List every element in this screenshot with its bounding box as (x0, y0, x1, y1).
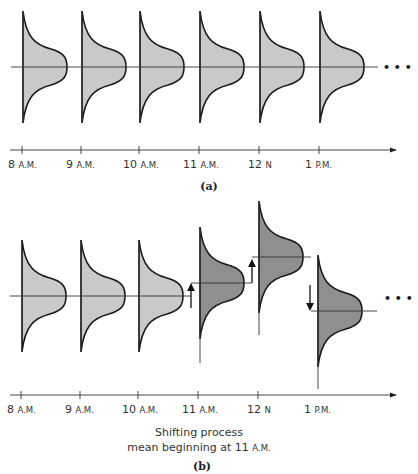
time-label-11am: 11 A.M. (183, 158, 219, 171)
annotation-line-1: Shifting process (155, 426, 243, 439)
annotation-line-2: mean beginning at 11 A.M. (127, 441, 270, 454)
time-label-10am: 10 A.M. (122, 403, 158, 416)
time-axis-a: 8 A.M. 9 A.M. 10 A.M. 11 A.M. 12 N 1 P.M… (8, 146, 396, 171)
time-axis-b: 8 A.M. 9 A.M. 10 A.M. 11 A.M. 12 N 1 P.M… (7, 391, 396, 416)
time-label-8am: 8 A.M. (7, 403, 36, 416)
distribution-b-1pm (318, 255, 362, 389)
ellipsis: • • • (384, 292, 413, 305)
time-label-9am: 9 A.M. (66, 158, 95, 171)
ellipsis: • • • (383, 61, 412, 74)
time-label-8am: 8 A.M. (8, 158, 37, 171)
time-label-10am: 10 A.M. (123, 158, 159, 171)
distribution-b-12n (259, 201, 303, 335)
distribution-b-11am (200, 227, 244, 363)
time-label-12n: 12 N (247, 403, 271, 416)
caption-b: (b) (193, 460, 211, 473)
control-chart-diagram: • • • 8 A.M. 9 A.M. 10 A.M. 11 A.M. 12 N… (0, 0, 418, 474)
time-label-12n: 12 N (248, 158, 272, 171)
time-label-1pm: 1 P.M. (305, 158, 332, 171)
time-label-1pm: 1 P.M. (304, 403, 331, 416)
time-label-9am: 9 A.M. (65, 403, 94, 416)
panel-a: • • • 8 A.M. 9 A.M. 10 A.M. 11 A.M. 12 N… (8, 11, 412, 193)
time-label-11am: 11 A.M. (182, 403, 218, 416)
panel-b: • • • 8 A.M. 9 A.M. 10 A.M. 11 A.M. 12 N… (7, 201, 413, 473)
caption-a: (a) (200, 180, 218, 193)
